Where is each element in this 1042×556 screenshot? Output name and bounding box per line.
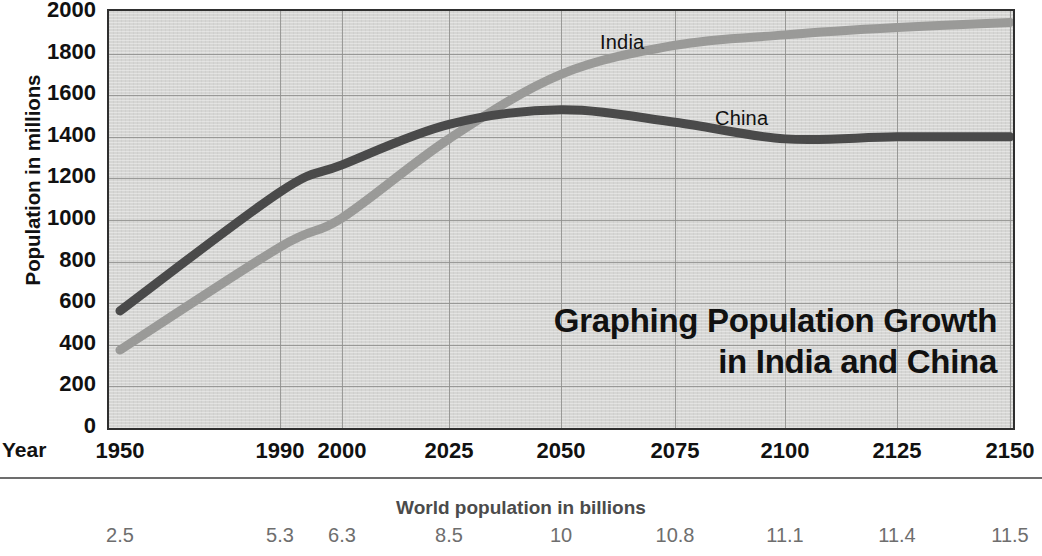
x-tick-2000: 2000 bbox=[318, 438, 367, 464]
world-population-axis-title: World population in billions bbox=[0, 497, 1042, 519]
series-label-china: China bbox=[715, 107, 768, 130]
x-tick-2075: 2075 bbox=[651, 438, 700, 464]
chart-title-line-2: in India and China bbox=[718, 343, 997, 382]
x-axis-title: Year bbox=[2, 438, 46, 462]
x-tick-1950: 1950 bbox=[96, 438, 145, 464]
world-population-tick-1: 5.3 bbox=[266, 524, 294, 547]
chart-title-line-1: Graphing Population Growth bbox=[554, 302, 997, 341]
population-growth-chart-figure: Population in millions 02004006008001000… bbox=[0, 0, 1042, 556]
x-tick-2100: 2100 bbox=[761, 438, 810, 464]
cut-off-footer-text bbox=[0, 547, 1042, 556]
series-label-india: India bbox=[600, 31, 644, 54]
world-population-tick-0: 2.5 bbox=[106, 524, 134, 547]
x-tick-2125: 2125 bbox=[873, 438, 922, 464]
horizontal-rule-divider bbox=[0, 477, 1042, 479]
plot-area: India China Graphing Population Growth i… bbox=[107, 9, 1015, 430]
world-population-tick-4: 10 bbox=[550, 524, 572, 547]
world-population-tick-3: 8.5 bbox=[435, 524, 463, 547]
world-population-tick-6: 11.1 bbox=[766, 524, 803, 547]
world-population-tick-7: 11.4 bbox=[878, 524, 915, 547]
india-line bbox=[120, 22, 1010, 350]
china-line bbox=[120, 110, 1010, 311]
y-axis-title: Population in millions bbox=[21, 15, 45, 345]
x-tick-2050: 2050 bbox=[537, 438, 586, 464]
x-tick-2150: 2150 bbox=[986, 438, 1035, 464]
x-tick-1990: 1990 bbox=[256, 438, 305, 464]
world-population-tick-8: 11.5 bbox=[991, 524, 1028, 547]
x-tick-2025: 2025 bbox=[425, 438, 474, 464]
world-population-tick-5: 10.8 bbox=[656, 524, 695, 547]
world-population-tick-2: 6.3 bbox=[328, 524, 356, 547]
